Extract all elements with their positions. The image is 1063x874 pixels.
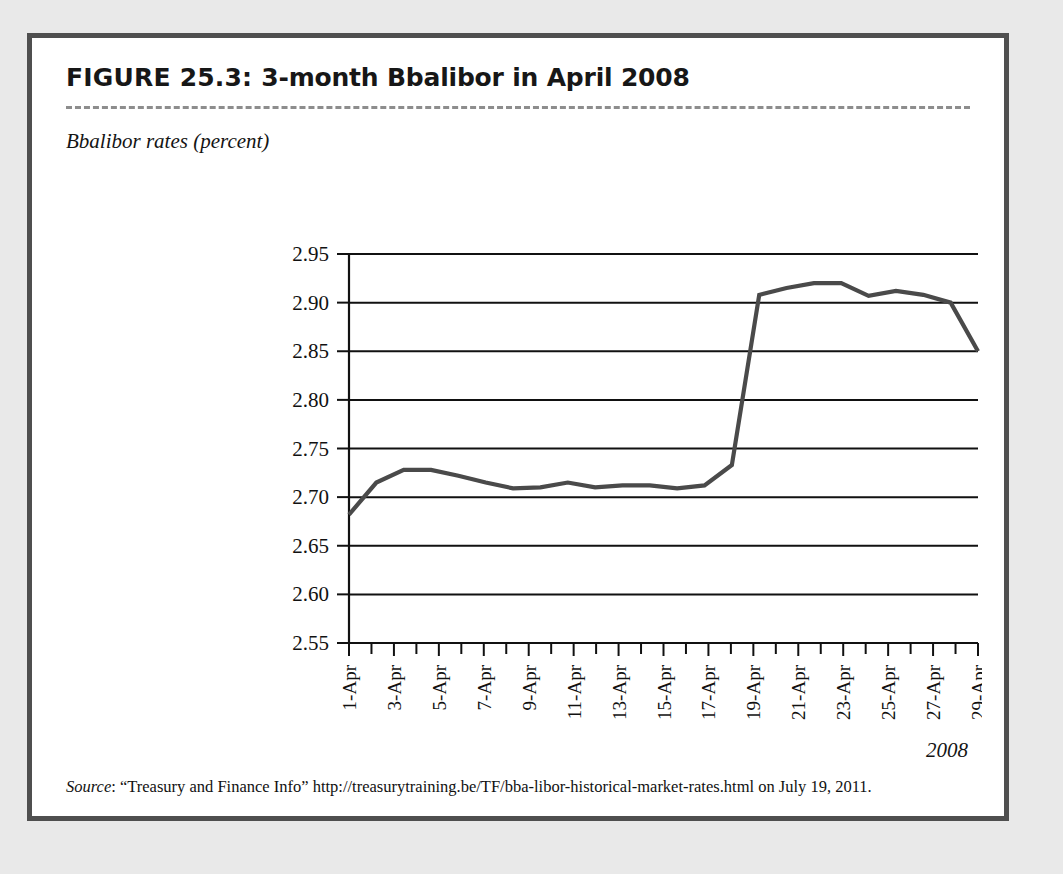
x-tick-label: 19-Apr — [743, 664, 764, 720]
y-tick-label: 2.55 — [292, 631, 329, 655]
x-tick-label: 27-Apr — [923, 664, 944, 720]
x-tick-group: 1-Apr3-Apr5-Apr7-Apr9-Apr11-Apr13-Apr15-… — [339, 643, 982, 720]
y-tick-label: 2.95 — [292, 242, 329, 266]
line-chart-svg: 2.952.902.852.802.752.702.652.602.55 1-A… — [66, 206, 982, 736]
x-tick-label: 13-Apr — [609, 664, 630, 720]
x-tick-label: 17-Apr — [698, 664, 719, 720]
source-note: Source: “Treasury and Finance Info” http… — [66, 776, 964, 799]
x-tick-label: 23-Apr — [833, 664, 854, 720]
x-tick-label: 9-Apr — [519, 664, 540, 710]
x-tick-label: 25-Apr — [878, 664, 899, 720]
x-tick-label: 5-Apr — [429, 664, 450, 710]
y-tick-label: 2.60 — [292, 582, 329, 606]
y-tick-label: 2.75 — [292, 437, 329, 461]
y-tick-label: 2.70 — [292, 485, 329, 509]
y-axis-caption: Bbalibor rates (percent) — [66, 129, 970, 154]
x-tick-label: 1-Apr — [339, 664, 360, 710]
x-tick-label: 3-Apr — [384, 664, 405, 710]
x-axis-year-label: 2008 — [926, 738, 968, 763]
x-tick-label: 29-Apr — [968, 664, 982, 720]
y-tick-label: 2.90 — [292, 291, 329, 315]
x-tick-label: 21-Apr — [788, 664, 809, 720]
figure-number: FIGURE 25.3: — [66, 63, 252, 92]
y-tick-label: 2.85 — [292, 339, 329, 363]
figure-title-text: 3-month Bbalibor in April 2008 — [261, 63, 689, 92]
source-text: : “Treasury and Finance Info” http://tre… — [111, 777, 871, 796]
figure-title: FIGURE 25.3:3-month Bbalibor in April 20… — [66, 64, 970, 92]
y-tick-group: 2.952.902.852.802.752.702.652.602.55 — [292, 242, 349, 655]
figure-card: FIGURE 25.3:3-month Bbalibor in April 20… — [27, 33, 1009, 821]
y-tick-label: 2.65 — [292, 534, 329, 558]
gridlines-group — [349, 254, 978, 643]
title-divider — [66, 106, 970, 109]
source-label: Source — [66, 777, 111, 796]
y-tick-label: 2.80 — [292, 388, 329, 412]
x-tick-label: 15-Apr — [654, 664, 675, 720]
x-tick-label: 11-Apr — [564, 664, 585, 719]
chart-plot-area: 2.952.902.852.802.752.702.652.602.55 1-A… — [66, 206, 982, 736]
x-tick-label: 7-Apr — [474, 664, 495, 710]
